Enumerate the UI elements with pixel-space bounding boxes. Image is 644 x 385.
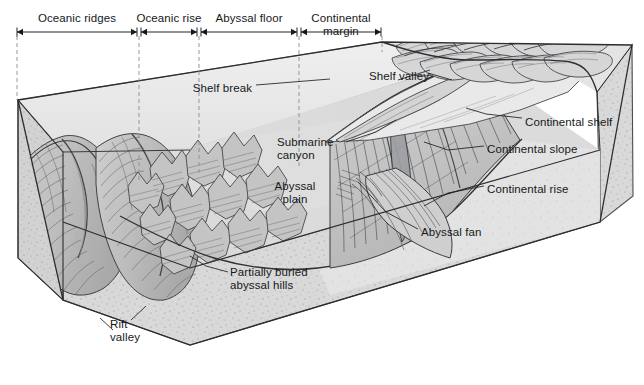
feature-label-line: Abyssal [275,180,316,193]
zone-label-line: margin [311,25,370,38]
feature-label-submarine-canyon: Submarinecanyon [277,136,334,162]
zone-label-line: Oceanic ridges [38,12,116,25]
feature-label-shelf-valley: Shelf valley [369,70,429,83]
zone-label-oceanic-ridges: Oceanic ridges [38,12,116,25]
feature-label-continental-shelf: Continental shelf [525,116,612,129]
feature-label-partially-buried-hills: Partially buriedabyssal hills [230,266,308,292]
zone-arrowhead-right-abyssal-floor [291,29,297,35]
zone-arrowhead-right-continental-margin [375,29,381,35]
zone-label-line: Oceanic rise [136,12,201,25]
feature-label-line: valley [110,331,140,344]
feature-label-line: Abyssal fan [421,226,482,239]
feature-label-line: canyon [277,149,334,162]
zone-arrowhead-left-oceanic-ridges [17,29,23,35]
feature-label-line: Submarine [277,136,334,149]
feature-label-line: plain [275,193,316,206]
feature-label-line: Partially buried [230,266,308,279]
zone-arrowhead-right-oceanic-ridges [131,29,137,35]
feature-label-line: Continental slope [487,143,578,156]
diagram-canvas: Oceanic ridgesOceanic riseAbyssal floorC… [0,0,644,385]
zone-arrowhead-left-abyssal-floor [201,29,207,35]
feature-label-shelf-break: Shelf break [193,82,252,95]
feature-label-abyssal-fan: Abyssal fan [421,226,482,239]
zone-label-line: Abyssal floor [215,12,282,25]
zone-arrowhead-right-oceanic-rise [191,29,197,35]
feature-label-continental-slope: Continental slope [487,143,578,156]
feature-label-line: Rift [110,318,140,331]
zone-arrowhead-left-oceanic-rise [141,29,147,35]
feature-label-line: abyssal hills [230,279,308,292]
feature-label-line: Continental rise [487,183,569,196]
zone-label-continental-margin: Continentalmargin [311,12,370,38]
zone-label-abyssal-floor: Abyssal floor [215,12,282,25]
feature-label-line: Continental shelf [525,116,612,129]
feature-label-line: Shelf valley [369,70,429,83]
feature-label-continental-rise: Continental rise [487,183,569,196]
zone-arrowhead-left-continental-margin [301,29,307,35]
feature-label-abyssal-plain: Abyssalplain [275,180,316,206]
zone-label-oceanic-rise: Oceanic rise [136,12,201,25]
feature-label-line: Shelf break [193,82,252,95]
feature-label-rift-valley: Riftvalley [110,318,140,344]
zone-label-line: Continental [311,12,370,25]
